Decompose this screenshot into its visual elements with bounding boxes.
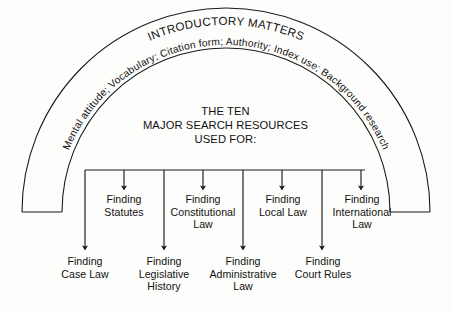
node-line-3: Law bbox=[158, 218, 248, 231]
node-line-1: Finding bbox=[45, 255, 125, 268]
node-finding-court-rules: Finding Court Rules bbox=[281, 255, 365, 280]
node-finding-administrative-law: Finding Administrative Law bbox=[196, 255, 290, 293]
node-finding-local-law: Finding Local Law bbox=[244, 193, 322, 218]
node-line-3: Law bbox=[319, 218, 405, 231]
node-line-1: Finding bbox=[158, 193, 248, 206]
node-finding-international-law: Finding International Law bbox=[319, 193, 405, 231]
center-caption: THE TEN MAJOR SEARCH RESOURCES USED FOR: bbox=[0, 104, 451, 147]
node-line-1: Finding bbox=[244, 193, 322, 206]
node-line-2: Case Law bbox=[45, 268, 125, 281]
node-line-1: Finding bbox=[84, 193, 164, 206]
figure-canvas: INTRODUCTORY MATTERS Mental attitude; Vo… bbox=[0, 0, 451, 314]
center-line-2: MAJOR SEARCH RESOURCES bbox=[0, 118, 451, 132]
node-line-1: Finding bbox=[319, 193, 405, 206]
node-line-1: Finding bbox=[196, 255, 290, 268]
node-finding-case-law: Finding Case Law bbox=[45, 255, 125, 280]
node-line-2: International bbox=[319, 206, 405, 219]
node-line-3: History bbox=[122, 280, 206, 293]
center-line-3: USED FOR: bbox=[0, 132, 451, 146]
node-line-2: Constitutional bbox=[158, 206, 248, 219]
node-line-2: Local Law bbox=[244, 206, 322, 219]
node-line-1: Finding bbox=[281, 255, 365, 268]
node-finding-statutes: Finding Statutes bbox=[84, 193, 164, 218]
node-line-2: Administrative bbox=[196, 268, 290, 281]
node-finding-legislative-history: Finding Legislative History bbox=[122, 255, 206, 293]
node-line-2: Court Rules bbox=[281, 268, 365, 281]
node-finding-constitutional-law: Finding Constitutional Law bbox=[158, 193, 248, 231]
node-line-2: Legislative bbox=[122, 268, 206, 281]
node-line-1: Finding bbox=[122, 255, 206, 268]
node-line-3: Law bbox=[196, 280, 290, 293]
node-line-2: Statutes bbox=[84, 206, 164, 219]
center-line-1: THE TEN bbox=[0, 104, 451, 118]
